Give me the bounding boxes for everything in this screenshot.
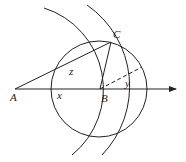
segment-bc <box>100 42 111 89</box>
label-a: A <box>9 91 17 103</box>
label-b: B <box>101 92 108 104</box>
label-z: z <box>68 65 74 77</box>
label-y: y <box>124 77 130 89</box>
arc-through-b <box>44 8 103 155</box>
segment-ac <box>15 42 111 89</box>
dashed-radius <box>100 67 142 89</box>
arc-through-c <box>87 5 130 155</box>
label-x: x <box>56 89 62 101</box>
geometry-diagram: A B C x y z <box>0 0 186 162</box>
label-c: C <box>113 28 121 40</box>
